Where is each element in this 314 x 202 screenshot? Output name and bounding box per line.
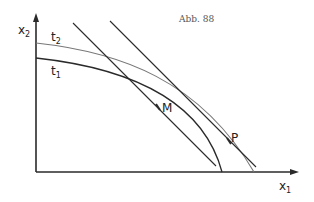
point-m-label: M bbox=[162, 101, 172, 115]
point-p-label: P bbox=[231, 131, 238, 145]
y-axis-arrow-icon bbox=[33, 13, 39, 22]
curve-t1-label: t1 bbox=[51, 64, 61, 80]
diagram-canvas: Abb. 88 x2 x1 t2 t1 M P bbox=[0, 0, 314, 202]
tangent-line-m bbox=[73, 23, 216, 166]
figure-caption: Abb. 88 bbox=[178, 14, 214, 24]
tangent-line-p bbox=[110, 21, 256, 167]
x-axis-arrow-icon bbox=[290, 169, 299, 175]
curve-t1 bbox=[36, 58, 222, 172]
curve-t2-label: t2 bbox=[51, 30, 61, 46]
y-axis-label: x2 bbox=[18, 23, 30, 39]
x-axis-label: x1 bbox=[279, 179, 291, 195]
